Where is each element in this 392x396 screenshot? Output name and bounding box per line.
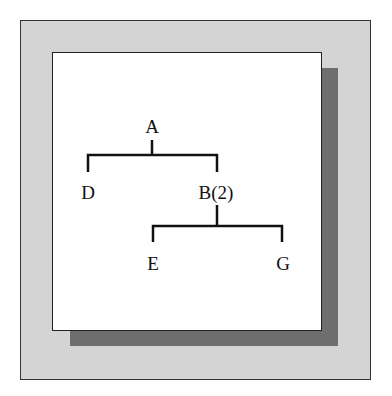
tree-diagram: A D B(2) E G [0, 0, 392, 396]
node-b: B(2) [199, 182, 234, 204]
edge-b-children [153, 226, 282, 242]
node-e: E [147, 253, 159, 274]
tree-edges [88, 140, 282, 242]
node-d: D [81, 182, 95, 203]
node-g: G [276, 253, 290, 274]
node-a: A [145, 116, 159, 137]
edge-a-children [88, 155, 217, 172]
